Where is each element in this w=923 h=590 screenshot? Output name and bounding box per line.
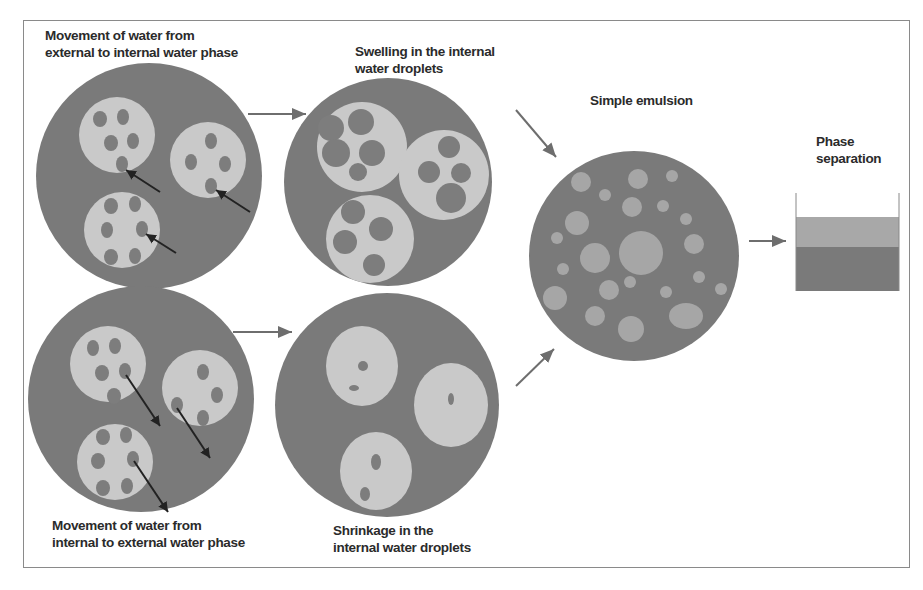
wow-emulsion-bottom-left bbox=[28, 286, 254, 512]
shrunk-emulsion bbox=[275, 293, 499, 517]
phase-separation-container bbox=[796, 193, 899, 291]
diagram-canvas bbox=[0, 0, 923, 590]
arrow-shrinkage-to-simple bbox=[516, 349, 554, 386]
wow-emulsion-top-left bbox=[36, 63, 262, 289]
swollen-emulsion bbox=[284, 78, 492, 286]
simple-emulsion bbox=[529, 151, 739, 361]
arrow-swelling-to-simple bbox=[516, 110, 556, 157]
